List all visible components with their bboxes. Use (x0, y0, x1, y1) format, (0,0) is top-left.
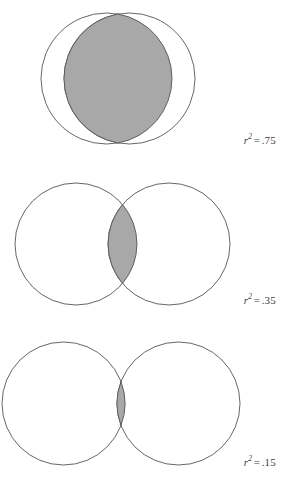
venn-panel-medium-overlap: r2=.35 (0, 160, 284, 320)
venn-diagram-high-overlap (0, 0, 284, 160)
venn-figure: r2=.75 r2=.35 r2=.15 (0, 0, 284, 477)
venn-panel-low-overlap: r2=.15 (0, 320, 284, 477)
venn-circle-left (2, 342, 125, 465)
venn-panel-high-overlap: r2=.75 (0, 0, 284, 160)
r-squared-label-high: r2=.75 (244, 133, 276, 146)
r-squared-value: .35 (262, 294, 276, 306)
venn-diagram-low-overlap (0, 320, 284, 477)
venn-circle-right (117, 342, 240, 465)
r-squared-equals: = (252, 294, 261, 306)
r-squared-label-medium: r2=.35 (244, 293, 276, 306)
venn-diagram-medium-overlap (0, 160, 284, 320)
r-squared-equals: = (252, 134, 261, 146)
r-squared-equals: = (252, 456, 261, 468)
r-squared-value: .15 (262, 456, 276, 468)
r-squared-label-low: r2=.15 (244, 455, 276, 468)
r-squared-value: .75 (262, 134, 276, 146)
